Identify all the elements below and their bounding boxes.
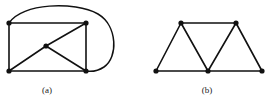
panel-a-vertex-top-left [6, 20, 11, 25]
panel-a-curved-edge-topleft-bottomright [9, 6, 114, 72]
panel-b-vertex-bottom-middle [205, 68, 210, 73]
panel-a-vertex-bottom-right [83, 68, 88, 73]
panel-a-edge-center-bottomleft [9, 46, 46, 71]
panel-b-vertex-top-left [178, 20, 183, 25]
panel-b-edge-topleft-bottommiddle [181, 23, 208, 71]
panel-b-edge-topleft-bottomleft [156, 23, 181, 71]
panel-a-edge-center-topright [46, 23, 86, 46]
panel-b-edge-topright-bottommiddle [208, 23, 236, 71]
panel-a-vertex-center [43, 43, 48, 48]
panel-a-vertex-top-right [83, 20, 88, 25]
panel-a-graph [6, 6, 113, 74]
panel-b-edge-topright-bottomright [236, 23, 262, 71]
panel-a-vertex-bottom-left [6, 68, 11, 73]
panel-a-caption: (a) [30, 86, 64, 95]
panel-b-caption: (b) [190, 86, 224, 95]
panel-b-vertex-bottom-right [259, 68, 264, 73]
panel-b-vertex-top-right [233, 20, 238, 25]
panel-b-vertex-bottom-left [153, 68, 158, 73]
panel-b-graph [153, 20, 264, 73]
panel-a-edge-center-bottomright [46, 46, 86, 71]
figure-container: (a) (b) [0, 0, 273, 103]
